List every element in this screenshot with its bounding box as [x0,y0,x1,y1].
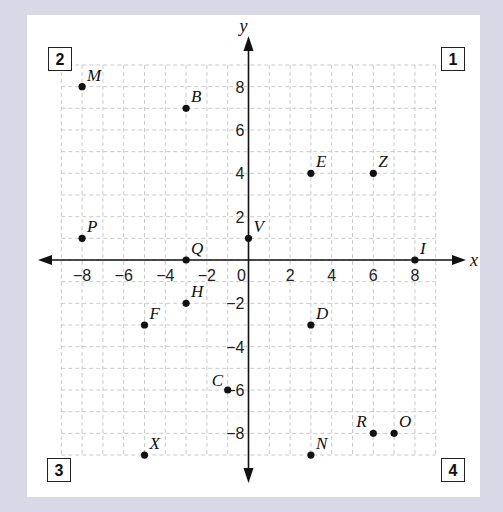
point-label: E [315,152,327,171]
point-label: D [315,304,329,323]
point-label: F [149,304,161,323]
x-tick-label: 4 [327,267,336,284]
point-D: D [307,304,329,329]
point-X: X [141,434,161,459]
point-label: H [190,282,205,301]
x-tick-label: −4 [156,267,174,284]
y-tick-label: −2 [226,295,244,312]
x-tick-label: 2 [286,267,295,284]
y-tick-label: 6 [236,122,245,139]
point-label: V [254,217,267,236]
y-tick-label: 8 [236,79,245,96]
y-axis-down-arrow-icon [244,468,254,483]
point-label: O [399,412,411,431]
y-tick-label: −4 [226,339,244,356]
quadrant-3-label: 3 [47,458,71,482]
point-B: B [183,87,203,112]
y-axis-label: y [238,16,248,36]
point-label: C [212,371,224,390]
point-label: M [86,66,102,85]
y-tick-label: 4 [236,165,245,182]
point-label: Z [378,152,388,171]
point-label: I [419,239,427,258]
point-F: F [141,304,161,329]
x-tick-label: 8 [410,267,419,284]
x-tick-label: 0 [237,267,246,284]
x-tick-label: 6 [369,267,378,284]
point-label: Q [191,239,203,258]
x-tick-label: −6 [115,267,133,284]
point-label: B [191,87,202,106]
x-axis-label: x [469,250,478,270]
point-label: R [355,412,367,431]
coordinate-plane: xy−8−6−4−2024688642−2−4−6−8MBPQVEZIHFDCX… [0,0,503,512]
axes: xy [38,16,478,483]
point-P: P [79,217,98,242]
y-tick-label: −8 [226,425,244,442]
x-tick-label: −8 [73,267,91,284]
point-label: N [315,434,329,453]
quadrant-2-label: 2 [48,47,72,71]
points: MBPQVEZIHFDCXNRO [79,66,427,459]
point-label: P [86,217,97,236]
x-axis-left-arrow-icon [38,255,52,265]
quadrant-1-label: 1 [441,47,465,71]
y-tick-label: 2 [236,209,245,226]
quadrant-4-label: 4 [441,458,465,482]
y-axis-up-arrow-icon [244,36,254,51]
point-label: X [149,434,161,453]
x-axis-right-arrow-icon [452,255,466,265]
